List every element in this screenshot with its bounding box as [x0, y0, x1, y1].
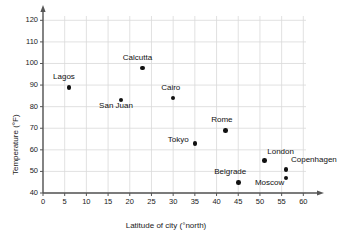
- y-tick-label: 120: [16, 15, 38, 24]
- x-tick-label: 60: [293, 197, 313, 206]
- data-point: [223, 128, 228, 133]
- x-tick-label: 15: [98, 197, 118, 206]
- data-point-label: Belgrade: [214, 167, 246, 176]
- y-tick-label: 60: [16, 145, 38, 154]
- data-point-label: San Juan: [99, 101, 133, 110]
- x-tick-label: 25: [141, 197, 161, 206]
- data-point-label: Copenhagen: [291, 155, 337, 164]
- y-tick-label: 70: [16, 123, 38, 132]
- x-tick-label: 35: [185, 197, 205, 206]
- y-tick-label: 90: [16, 80, 38, 89]
- data-point: [236, 180, 241, 185]
- y-tick-label: 100: [16, 58, 38, 67]
- x-tick-label: 10: [76, 197, 96, 206]
- y-tick-label: 40: [16, 188, 38, 197]
- data-point: [193, 141, 198, 146]
- x-tick-label: 5: [55, 197, 75, 206]
- data-point-label: Calcutta: [123, 53, 152, 62]
- y-tick-label: 80: [16, 102, 38, 111]
- data-point-label: Tokyo: [168, 135, 189, 144]
- data-point: [262, 158, 267, 163]
- x-tick-label: 50: [250, 197, 270, 206]
- x-axis-title: Latitude of city (°north): [0, 221, 332, 230]
- data-point-label: Moscow: [255, 178, 284, 187]
- x-tick-label: 30: [163, 197, 183, 206]
- data-point: [284, 167, 289, 172]
- x-tick-label: 20: [120, 197, 140, 206]
- x-tick-label: 40: [207, 197, 227, 206]
- y-tick-label: 110: [16, 37, 38, 46]
- data-point-label: London: [267, 147, 294, 156]
- data-point-label: Cairo: [161, 83, 180, 92]
- data-point-label: Lagos: [53, 72, 75, 81]
- x-tick-label: 45: [228, 197, 248, 206]
- y-tick-label: 50: [16, 166, 38, 175]
- data-point-label: Rome: [211, 115, 232, 124]
- data-point: [67, 85, 72, 90]
- x-tick-label: 0: [33, 197, 53, 206]
- data-point: [140, 66, 145, 71]
- x-tick-label: 55: [272, 197, 292, 206]
